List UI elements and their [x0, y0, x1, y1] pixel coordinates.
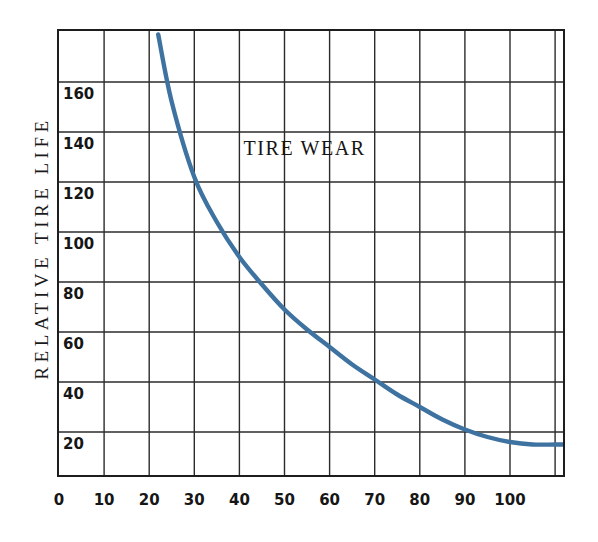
- series-line-relative-tire-life: [158, 35, 563, 445]
- x-tick-label: 40: [219, 491, 259, 509]
- y-tick-label: 160: [63, 85, 94, 103]
- data-curve-layer: [59, 31, 563, 475]
- x-tick-label: 30: [174, 491, 214, 509]
- chart-title: TIRE WEAR: [243, 137, 365, 160]
- x-tick-label: 90: [445, 491, 485, 509]
- y-tick-label: 60: [63, 335, 84, 353]
- y-tick-label: 120: [63, 185, 94, 203]
- y-tick-label: 80: [63, 285, 84, 303]
- y-tick-label: 140: [63, 135, 94, 153]
- x-tick-label: 20: [129, 491, 169, 509]
- x-tick-label: 10: [84, 491, 124, 509]
- x-tick-label: 50: [265, 491, 305, 509]
- y-tick-label: 20: [63, 435, 84, 453]
- tire-wear-chart-figure: RELATIVE TIRE LIFE TIRE WEAR 20406080100…: [0, 0, 598, 542]
- y-tick-label: 100: [63, 235, 94, 253]
- x-tick-label: 60: [310, 491, 350, 509]
- plot-area: TIRE WEAR: [57, 29, 565, 477]
- x-tick-label: 70: [355, 491, 395, 509]
- x-tick-label: 0: [39, 491, 79, 509]
- x-tick-label: 100: [490, 491, 530, 509]
- x-tick-label: 80: [400, 491, 440, 509]
- y-axis-title: RELATIVE TIRE LIFE: [22, 28, 62, 468]
- y-tick-label: 40: [63, 385, 84, 403]
